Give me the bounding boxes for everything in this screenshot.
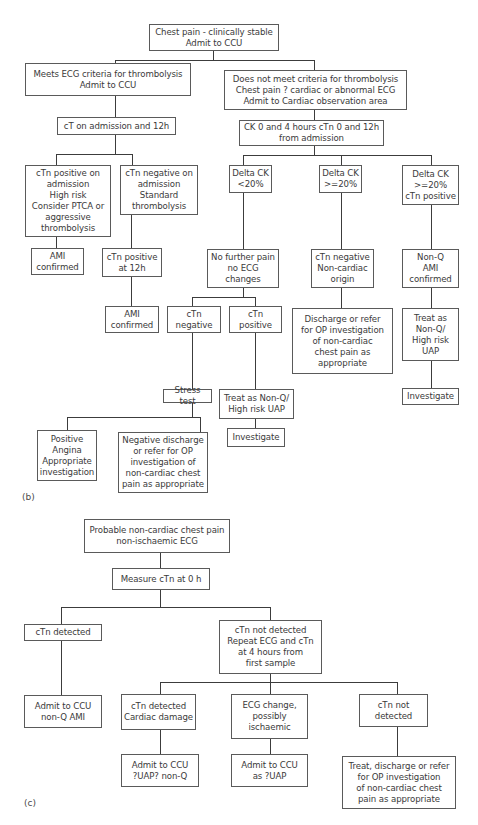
node-investigate-mid: Investigate — [227, 428, 285, 447]
connector — [431, 204, 432, 249]
node-non-q-ami-confirmed: Non-Q AMI confirmed — [402, 249, 459, 288]
node-ck-0-4-hours: CK 0 and 4 hours cTn 0 and 12h from admi… — [239, 120, 384, 146]
node-positive-angina: Positive Angina Appropriate investigatio… — [37, 430, 97, 481]
node-delta-ck-ge20-ctn-positive: Delta CK >=20% cTn positive — [402, 165, 459, 205]
connector — [243, 287, 244, 297]
node-ctn-positive-12h: cTn positive at 12h — [102, 248, 162, 277]
connector — [132, 154, 133, 165]
node-admit-ccu-non-q-ami: Admit to CCU non-Q AMI — [24, 695, 102, 728]
connector — [160, 729, 161, 754]
connector — [160, 682, 398, 683]
node-ctn-negative: cTn negative — [167, 306, 221, 333]
node-ami-confirmed-2: AMI confirmed — [105, 306, 159, 333]
connector — [115, 134, 116, 154]
node-ctn-detected-cardiac-damage: cTn detected Cardiac damage — [121, 694, 196, 730]
connector — [56, 236, 57, 248]
node-ctn-not-detected: cTn not detected — [359, 694, 428, 727]
connector — [213, 50, 214, 60]
node-admit-ccu-as-uap: Admit to CCU as ?UAP — [231, 754, 308, 787]
node-meets-ecg-criteria: Meets ECG criteria for thrombolysis Admi… — [25, 63, 191, 96]
node-ecg-change: ECG change, possibly ischaemic — [231, 694, 308, 739]
connector — [160, 682, 161, 694]
connector — [115, 60, 315, 61]
connector — [192, 332, 193, 389]
connector — [243, 192, 244, 249]
node-admit-ccu-uap-non-q: Admit to CCU ?UAP? non-Q — [121, 754, 199, 787]
connector — [56, 154, 57, 165]
connector — [314, 145, 315, 155]
connector — [255, 297, 256, 306]
node-discharge-or-refer: Discharge or refer for OP investigation … — [292, 308, 393, 374]
connector — [160, 552, 161, 568]
connector — [56, 154, 133, 155]
connector — [270, 607, 271, 620]
connector — [200, 417, 201, 432]
node-ctn-negative-admission: cTn negative on admission Standard throm… — [120, 165, 198, 215]
node-ctn-positive-admission: cTn positive on admission High risk Cons… — [25, 165, 111, 237]
node-investigate-right: Investigate — [402, 388, 459, 405]
connector — [431, 287, 432, 308]
connector — [341, 287, 342, 308]
node-ctn-detected: cTn detected — [24, 624, 102, 641]
connector — [160, 589, 161, 607]
panel-b-label: (b) — [22, 492, 35, 502]
connector — [314, 109, 315, 120]
connector — [243, 155, 244, 165]
connector — [131, 276, 132, 306]
node-chest-pain-stable: Chest pain - clinically stable Admit to … — [149, 24, 279, 51]
connector — [61, 607, 62, 624]
node-treat-as-non-q-right: Treat as Non-Q/ High risk UAP — [402, 308, 459, 361]
node-no-further-pain: No further pain no ECG changes — [207, 249, 279, 288]
connector — [341, 155, 342, 165]
node-delta-ck-ge20: Delta CK >=20% — [319, 165, 362, 193]
connector — [61, 640, 62, 695]
connector — [431, 155, 432, 165]
connector — [397, 682, 398, 694]
node-does-not-meet-criteria: Does not meet criteria for thrombolysis … — [224, 70, 407, 110]
connector — [115, 95, 116, 117]
connector — [341, 192, 342, 249]
connector — [67, 417, 201, 418]
connector — [192, 297, 193, 306]
node-negative-discharge: Negative discharge or refer for OP inves… — [118, 432, 208, 493]
connector — [255, 332, 256, 389]
node-ami-confirmed-1: AMI confirmed — [31, 248, 84, 275]
connector — [270, 738, 271, 754]
connector — [243, 155, 432, 156]
connector — [67, 417, 68, 430]
connector — [431, 360, 432, 388]
node-ctn-negative-non-cardiac: cTn negative Non-cardiac origin — [311, 249, 374, 288]
node-measure-ctn-0h: Measure cTn at 0 h — [112, 568, 210, 590]
connector — [131, 214, 132, 248]
node-ct-on-admission: cT on admission and 12h — [57, 117, 176, 135]
connector — [270, 682, 271, 694]
node-ctn-positive: cTn positive — [229, 306, 282, 333]
connector — [255, 418, 256, 428]
node-treat-as-non-q-mid: Treat as Non-Q/ High risk UAP — [219, 389, 294, 419]
node-probable-non-cardiac: Probable non-cardiac chest pain non-isch… — [84, 519, 230, 553]
node-ctn-not-detected-repeat: cTn not detected Repeat ECG and cTn at 4… — [219, 620, 322, 674]
node-delta-ck-lt20: Delta CK <20% — [229, 165, 272, 193]
connector — [397, 726, 398, 756]
panel-c-label: (c) — [24, 798, 36, 808]
connector — [192, 297, 256, 298]
connector — [61, 607, 271, 608]
node-treat-discharge-refer: Treat, discharge or refer for OP investi… — [342, 756, 456, 809]
node-stress-test: Stress test — [163, 389, 212, 403]
